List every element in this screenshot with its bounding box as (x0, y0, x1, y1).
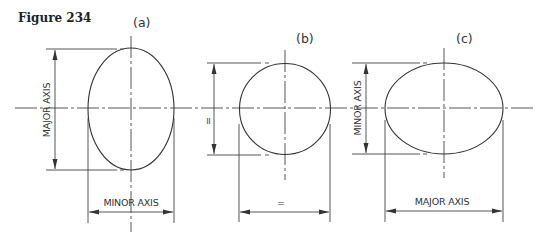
view-b-vertical-label: = (202, 117, 213, 125)
view-a: (a) MAJOR AXIS MINOR AXIS (41, 15, 174, 232)
view-b-horizontal-label: = (277, 197, 285, 208)
view-b-label: (b) (296, 31, 314, 46)
view-a-horizontal-label: MINOR AXIS (103, 197, 158, 208)
view-c-label: (c) (456, 31, 473, 46)
figure-title: Figure 234 (18, 11, 91, 25)
view-b: (b) = = (202, 31, 331, 222)
view-c: (c) MINOR AXIS MAJOR AXIS (352, 31, 503, 222)
view-a-vertical-label: MAJOR AXIS (41, 83, 52, 138)
figure-canvas: Figure 234 (a) (0, 0, 539, 241)
view-c-vertical-label: MINOR AXIS (352, 80, 363, 135)
view-a-label: (a) (133, 15, 150, 30)
view-c-ellipse (385, 63, 503, 154)
diagram: (a) MAJOR AXIS MINOR AXIS (b) (0, 0, 539, 241)
view-c-horizontal-label: MAJOR AXIS (415, 196, 470, 207)
